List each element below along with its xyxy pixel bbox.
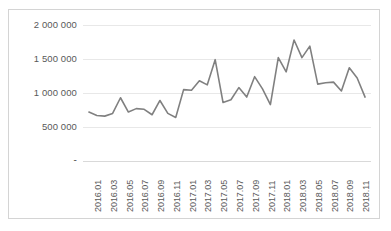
gridlines-group [83,26,371,162]
data-series-line [89,40,365,118]
line-chart-plot [0,0,391,231]
